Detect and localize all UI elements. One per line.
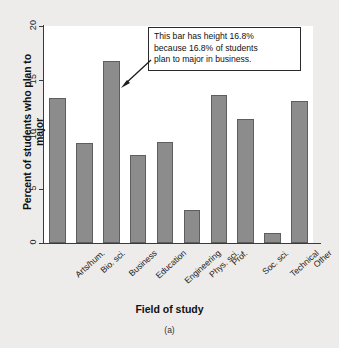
bar-arts-hum	[49, 98, 66, 243]
bar-technical	[264, 233, 281, 243]
y-tick-label: 0	[28, 231, 38, 253]
callout-line-2: because 16.8% of students	[154, 43, 295, 55]
y-tick-label: 10	[28, 123, 38, 145]
callout-line-3: plan to major in business.	[154, 54, 295, 66]
bar-engineering	[157, 142, 174, 243]
bar-bio-sci	[76, 143, 93, 243]
bar-soc-sci	[237, 119, 254, 243]
figure-panel: Percent of students who plan to major 05…	[0, 0, 339, 348]
bar-prof	[211, 95, 228, 243]
x-axis-title: Field of study	[0, 303, 339, 315]
x-tick-label: Soc. sci.	[260, 248, 290, 277]
bar-business	[103, 61, 120, 243]
bar-phys-sci	[184, 210, 201, 243]
y-tick-mark	[39, 189, 44, 190]
y-tick-label: 20	[28, 14, 38, 36]
y-tick-mark	[39, 80, 44, 81]
panel-caption: (a)	[0, 325, 339, 335]
y-tick-mark	[39, 135, 44, 136]
callout-line-1: This bar has height 16.8%	[154, 31, 295, 43]
callout-annotation: This bar has height 16.8% because 16.8% …	[148, 27, 301, 71]
y-tick-mark	[39, 243, 44, 244]
y-tick-mark	[39, 26, 44, 27]
bar-education	[130, 155, 147, 243]
x-axis-line	[43, 243, 321, 244]
y-tick-label: 5	[28, 177, 38, 199]
bar-other	[291, 101, 308, 243]
y-tick-label: 15	[28, 68, 38, 90]
